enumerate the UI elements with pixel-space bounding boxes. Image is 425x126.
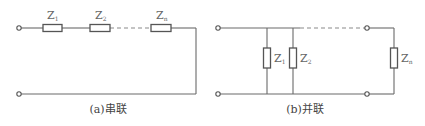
- label-z1: Z1: [47, 9, 58, 22]
- terminal: [17, 92, 21, 96]
- terminal: [216, 92, 220, 96]
- label-zn: Zn: [156, 9, 168, 22]
- impedance-zn: [151, 25, 171, 32]
- label-zn: Zn: [401, 52, 413, 65]
- impedance-z1: [43, 25, 62, 32]
- label-z1: Z1: [274, 52, 285, 65]
- terminal: [365, 26, 369, 30]
- parallel-circuit: Z1 Z2 Zn (b)并联: [216, 26, 413, 116]
- label-z2: Z2: [300, 52, 312, 65]
- label-z2: Z2: [95, 9, 107, 22]
- terminal: [216, 26, 220, 30]
- series-circuit: Z1 Z2 Zn (a)串联: [17, 9, 196, 116]
- terminal: [17, 26, 21, 30]
- impedance-zn: [391, 48, 398, 68]
- impedance-z2: [290, 48, 297, 68]
- impedance-z2: [90, 25, 110, 32]
- circuit-diagram: Z1 Z2 Zn (a)串联 Z1 Z2 Zn: [0, 0, 425, 126]
- impedance-z1: [264, 48, 271, 68]
- caption-series: (a)串联: [89, 103, 126, 116]
- caption-parallel: (b)并联: [286, 102, 324, 116]
- terminal: [365, 92, 369, 96]
